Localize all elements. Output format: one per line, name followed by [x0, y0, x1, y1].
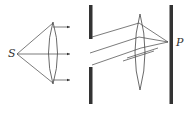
collimating-lens [49, 22, 58, 84]
converging-rays [139, 23, 168, 48]
diffraction-diagram: S P [0, 0, 191, 113]
observation-screen [170, 5, 174, 104]
focusing-lens [135, 14, 145, 90]
slit-barrier [89, 5, 93, 104]
diagram-canvas [0, 0, 191, 113]
diffracted-rays [90, 23, 158, 65]
source-label: S [8, 48, 16, 59]
point-label: P [176, 37, 183, 48]
source-rays [17, 23, 53, 83]
